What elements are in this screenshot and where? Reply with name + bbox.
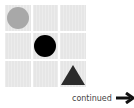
continued-link[interactable]: continued (72, 92, 134, 104)
grid-cell-r0-c0 (5, 5, 31, 31)
triangle-icon (61, 65, 85, 85)
grid-cell-r2-c1 (33, 61, 59, 87)
grid-cell-r0-c2 (60, 5, 86, 31)
grid-cell-r1-c1 (33, 33, 59, 59)
arrow-right-icon (115, 92, 134, 104)
grid-cell-r2-c0 (5, 61, 31, 87)
continued-label: continued (72, 94, 112, 103)
shape-grid (5, 5, 86, 87)
gray-circle-icon (7, 7, 29, 29)
grid-cell-r2-c2 (60, 61, 86, 87)
grid-cell-r1-c2 (60, 33, 86, 59)
grid-cell-r1-c0 (5, 33, 31, 59)
black-circle-icon (34, 35, 56, 57)
grid-cell-r0-c1 (33, 5, 59, 31)
